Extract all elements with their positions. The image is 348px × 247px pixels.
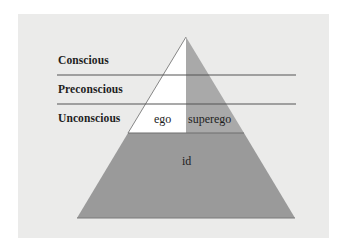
freud-pyramid-diagram — [0, 0, 348, 247]
superego-label: superego — [188, 113, 231, 125]
level-label-conscious: Conscious — [58, 55, 109, 67]
level-label-preconscious: Preconscious — [58, 84, 123, 96]
id-region — [77, 133, 295, 218]
ego-label: ego — [154, 113, 171, 125]
id-label: id — [182, 155, 191, 167]
level-label-unconscious: Unconscious — [58, 113, 120, 125]
